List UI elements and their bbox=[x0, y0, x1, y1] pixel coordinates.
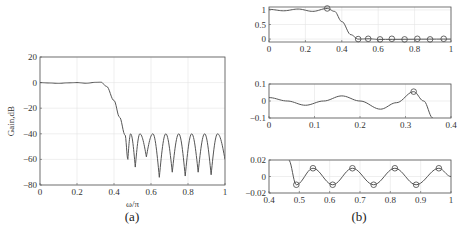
x-tick-label: 0 bbox=[267, 44, 272, 54]
figure: 00.20.40.60.81200−20−40−60−80ω/πGain,dB0… bbox=[0, 0, 465, 236]
y-tick-label: 0 bbox=[262, 34, 267, 44]
y-tick-label: 0 bbox=[262, 96, 267, 106]
x-tick-label: 1 bbox=[449, 195, 454, 205]
x-tick-label: 0.1 bbox=[309, 120, 320, 130]
y-tick-label: 1 bbox=[262, 5, 267, 15]
x-tick-label: 0.6 bbox=[324, 195, 336, 205]
x-tick-label: 0.4 bbox=[445, 120, 457, 130]
x-tick-label: 0.5 bbox=[294, 195, 306, 205]
chart-panel-b1: 00.20.40.60.8110.50 bbox=[255, 5, 454, 54]
y-tick-label: −0.1 bbox=[250, 113, 266, 123]
x-tick-label: 0.3 bbox=[400, 120, 412, 130]
x-tick-label: 0.4 bbox=[108, 187, 120, 197]
series-line bbox=[269, 92, 433, 118]
y-tick-label: 0 bbox=[33, 78, 38, 88]
x-tick-label: 0 bbox=[38, 187, 43, 197]
x-axis-label: ω/π bbox=[126, 199, 139, 209]
y-tick-label: −0.02 bbox=[245, 188, 266, 198]
y-tick-label: 0.1 bbox=[255, 79, 266, 89]
y-tick-label: 0.02 bbox=[250, 155, 266, 165]
caption-a: (a) bbox=[125, 209, 139, 224]
x-tick-label: 0.2 bbox=[300, 44, 311, 54]
chart-panel-a: 00.20.40.60.81200−20−40−60−80ω/πGain,dB bbox=[6, 52, 227, 209]
x-tick-label: 0.2 bbox=[71, 187, 82, 197]
y-axis-label: Gain,dB bbox=[6, 106, 16, 136]
series-line bbox=[269, 8, 451, 39]
y-tick-label: −80 bbox=[23, 180, 38, 190]
y-tick-label: −20 bbox=[23, 103, 38, 113]
chart-panel-b3: 0.40.50.60.70.80.910.020−0.02 bbox=[245, 155, 453, 205]
y-tick-label: −60 bbox=[23, 154, 38, 164]
x-tick-label: 0.9 bbox=[415, 195, 427, 205]
series-line bbox=[289, 160, 451, 185]
chart-panel-b2: 00.10.20.30.40.10−0.1 bbox=[250, 79, 457, 130]
y-tick-label: 0 bbox=[262, 172, 267, 182]
y-tick-label: 20 bbox=[28, 52, 38, 62]
x-tick-label: 0.7 bbox=[354, 195, 366, 205]
x-tick-label: 0.2 bbox=[354, 120, 365, 130]
x-tick-label: 0.8 bbox=[409, 44, 421, 54]
x-tick-label: 0.8 bbox=[182, 187, 194, 197]
x-tick-label: 0.6 bbox=[373, 44, 385, 54]
series-line bbox=[40, 82, 225, 177]
caption-b: (b) bbox=[351, 209, 366, 224]
x-tick-label: 0 bbox=[267, 120, 272, 130]
x-tick-label: 1 bbox=[449, 44, 454, 54]
x-tick-label: 0.4 bbox=[336, 44, 348, 54]
x-tick-label: 0.8 bbox=[385, 195, 397, 205]
y-tick-label: 0.5 bbox=[255, 20, 267, 30]
y-tick-label: −40 bbox=[23, 129, 38, 139]
x-tick-label: 1 bbox=[223, 187, 228, 197]
x-tick-label: 0.6 bbox=[145, 187, 157, 197]
